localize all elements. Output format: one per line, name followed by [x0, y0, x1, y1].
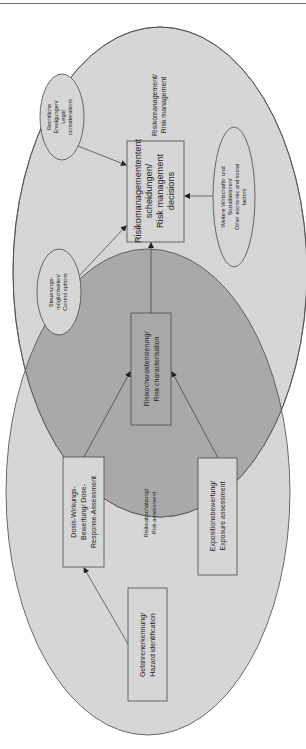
svg-text:Control options: Control options [62, 273, 68, 311]
risk-analysis-diagram: Risikomanagement/ Risk management Risiko… [0, 0, 306, 749]
svg-text:Sozialfaktoren/: Sozialfaktoren/ [227, 178, 233, 215]
svg-text:möglichkeiten/: möglichkeiten/ [55, 274, 61, 310]
svg-text:Steuerungs-: Steuerungs- [48, 277, 54, 308]
svg-text:factors: factors [241, 188, 247, 205]
svg-text:Risikocharakterisierung/: Risikocharakterisierung/ [143, 332, 151, 407]
svg-text:Risk assessment: Risk assessment [151, 491, 157, 534]
svg-text:Expositionsbewertung/: Expositionsbewertung/ [209, 481, 217, 551]
svg-text:Exposure assessment: Exposure assessment [219, 482, 227, 551]
svg-text:Dosis-Wirkungs-: Dosis-Wirkungs- [70, 486, 78, 538]
risk-characterisation-box [131, 313, 171, 425]
svg-text:Other economic and social: Other economic and social [234, 164, 240, 230]
hazard-identification-box [128, 588, 167, 701]
svg-text:Legal: Legal [60, 110, 66, 124]
svg-text:considerations: considerations [67, 99, 73, 135]
svg-text:Risikomanagemententent: Risikomanagemententent [133, 138, 143, 243]
svg-text:Risk management: Risk management [160, 77, 168, 133]
exposure-assessment-box [198, 458, 237, 575]
svg-text:decisions: decisions [166, 171, 176, 210]
svg-text:Risk characterisation: Risk characterisation [153, 336, 160, 401]
svg-text:Weitere Wirtschafts- und: Weitere Wirtschafts- und [220, 166, 226, 227]
svg-text:Gefahrenerkennung/: Gefahrenerkennung/ [139, 613, 147, 677]
dose-response-label: Dosis-Wirkungs- Bewertung/ Dose- Respons… [70, 476, 98, 548]
svg-text:Risikoabschätzung/: Risikoabschätzung/ [143, 488, 149, 537]
risk-management-label: Risikomanagement/ Risk management [151, 74, 168, 136]
control-options-label: Steuerungs- möglichkeiten/ Control optio… [48, 273, 68, 311]
svg-text:Rechtliche: Rechtliche [46, 104, 52, 130]
svg-text:Bewertung/ Dose-: Bewertung/ Dose- [80, 483, 88, 540]
svg-text:Risk management: Risk management [155, 154, 165, 228]
svg-text:scheidungen/: scheidungen/ [144, 163, 154, 218]
svg-text:Hazard identification: Hazard identification [149, 613, 156, 677]
svg-text:Risikomanagement/: Risikomanagement/ [151, 74, 159, 136]
svg-text:Erwägungen/: Erwägungen/ [53, 100, 59, 133]
svg-text:Response-Assessment: Response-Assessment [90, 476, 98, 548]
